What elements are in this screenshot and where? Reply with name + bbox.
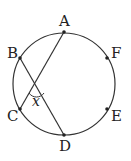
label-b: B: [7, 46, 18, 61]
point-c: [18, 107, 22, 111]
circle: [13, 33, 115, 135]
label-d: D: [59, 139, 71, 154]
circle-diagram: A B C D E F x: [0, 0, 131, 161]
label-e: E: [111, 109, 122, 124]
point-b: [18, 56, 22, 60]
point-a: [62, 30, 66, 34]
point-e: [105, 107, 109, 111]
label-c: C: [7, 109, 18, 124]
angle-label-x: x: [32, 94, 40, 108]
label-f: F: [111, 46, 121, 61]
point-f: [105, 56, 109, 60]
label-a: A: [59, 14, 70, 29]
